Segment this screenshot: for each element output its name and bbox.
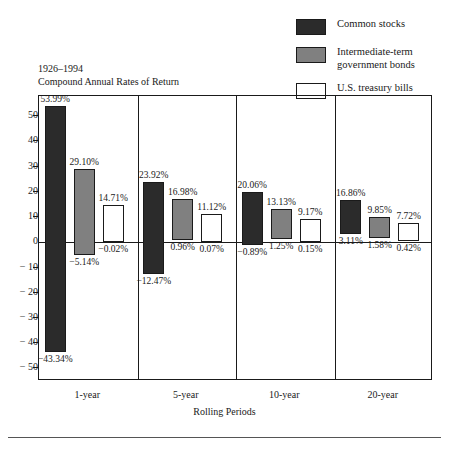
value-label-low-1-year-2: −0.02% [98, 244, 128, 254]
bar-1-year-u.s. [103, 205, 124, 242]
value-label-low-20-year-1: 1.58% [367, 240, 392, 250]
value-label-low-5-year-2: 0.07% [199, 244, 224, 254]
bar-10-year-intermediate-term [271, 209, 292, 239]
group-separator-3 [335, 96, 336, 379]
value-label-low-5-year-0: −12.47% [136, 276, 171, 286]
legend-item-1: Intermediate-term government bonds [296, 46, 446, 71]
legend-label-2: U.S. treasury bills [337, 82, 413, 95]
x-axis-title: Rolling Periods [0, 406, 449, 417]
value-label-low-1-year-1: −5.14% [69, 257, 99, 267]
bar-1-year-common [45, 106, 66, 351]
bar-5-year-common [143, 182, 164, 274]
bottom-divider [8, 437, 441, 438]
bar-20-year-u.s. [398, 223, 419, 241]
bar-20-year-intermediate-term [369, 217, 390, 238]
value-label-high-1-year-0: 53.99% [41, 94, 70, 104]
bar-10-year-common [242, 192, 263, 245]
value-label-low-20-year-2: 0.42% [396, 243, 421, 253]
x-axis: 1-year5-year10-year20-year [38, 381, 432, 405]
bar-10-year-u.s. [300, 219, 321, 242]
value-label-high-20-year-2: 7.72% [396, 211, 421, 221]
value-label-low-5-year-1: 0.96% [170, 242, 195, 252]
value-label-high-1-year-1: 29.10% [70, 157, 99, 167]
value-label-high-5-year-2: 11.12% [197, 202, 226, 212]
value-label-low-10-year-2: 0.15% [298, 244, 323, 254]
value-label-high-10-year-2: 9.17% [298, 207, 323, 217]
bar-1-year-intermediate-term [74, 169, 95, 255]
group-separator-1 [138, 96, 139, 379]
chart-title-period: 1926–1994 [38, 62, 179, 75]
plot-area: 53.99%−43.34%23.92%−12.47%20.06%−0.89%16… [38, 95, 432, 380]
bar-5-year-intermediate-term [172, 199, 193, 239]
y-axis: 50403020100− 10− 20− 30− 40− 50 [0, 95, 38, 380]
x-tick-label-20-year: 20-year [367, 389, 398, 400]
value-label-low-1-year-0: −43.34% [38, 354, 73, 364]
value-label-low-10-year-0: −0.89% [237, 247, 267, 257]
chart-title-main: Compound Annual Rates of Return [38, 75, 179, 88]
value-label-low-10-year-1: 1.25% [269, 241, 294, 251]
value-label-high-20-year-1: 9.85% [367, 205, 392, 215]
x-tick-label-5-year: 5-year [173, 389, 199, 400]
legend-label-0: Common stocks [337, 18, 405, 31]
y-tick-label-5: 0 [8, 236, 38, 246]
bar-20-year-common [340, 200, 361, 235]
value-label-high-20-year-0: 16.86% [336, 188, 365, 198]
legend-item-0: Common stocks [296, 18, 446, 35]
value-label-high-1-year-2: 14.71% [99, 193, 128, 203]
value-label-high-10-year-0: 20.06% [238, 180, 267, 190]
legend-swatch-common-stocks [296, 19, 326, 35]
value-label-high-5-year-0: 23.92% [139, 170, 168, 180]
value-label-high-10-year-1: 13.13% [267, 197, 296, 207]
bar-5-year-u.s. [201, 214, 222, 242]
legend-label-1: Intermediate-term government bonds [337, 46, 415, 71]
value-label-low-20-year-0: 3.11% [339, 236, 363, 246]
x-tick-label-10-year: 10-year [269, 389, 300, 400]
legend-swatch-intermediate-bonds [296, 47, 326, 63]
group-separator-2 [236, 96, 237, 379]
chart-title: 1926–1994Compound Annual Rates of Return [38, 62, 179, 88]
value-label-high-5-year-1: 16.98% [168, 187, 197, 197]
x-tick-label-1-year: 1-year [74, 389, 100, 400]
